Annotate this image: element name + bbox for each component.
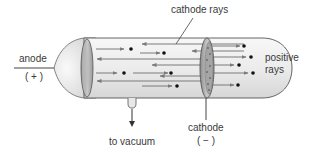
cathode-rays-label: cathode rays xyxy=(171,4,228,15)
positive-rays-label-line2: rays xyxy=(265,64,284,75)
cathode-label: cathode xyxy=(188,122,224,133)
anode-label: anode xyxy=(19,53,47,64)
cathode-ray-tube-diagram xyxy=(0,0,316,155)
anode-sign-label: ( + ) xyxy=(25,71,43,82)
to-vacuum-label: to vacuum xyxy=(109,136,155,147)
positive-rays-label-line1: positive xyxy=(265,52,299,63)
cathode-disk xyxy=(200,38,214,98)
cathode-sign-label: ( − ) xyxy=(197,135,215,146)
